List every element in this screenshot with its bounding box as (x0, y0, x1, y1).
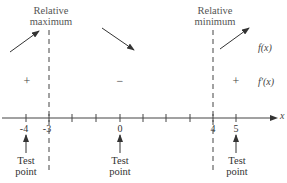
tick-label: 4 (211, 123, 216, 134)
relative-minimum-label: Relative minimum (190, 5, 240, 27)
tick-label: 0 (118, 123, 123, 134)
sign-interval-1: + (24, 74, 31, 89)
label-line: point (109, 166, 131, 177)
label-line: point (226, 166, 248, 177)
sign-interval-3: + (233, 74, 240, 89)
tick-label: -3 (43, 123, 51, 134)
label-line: Relative (26, 5, 76, 16)
test-point-label: Test point (109, 155, 131, 177)
relative-maximum-label: Relative maximum (26, 5, 76, 27)
test-point-label: Test point (226, 155, 248, 177)
axis-variable-label: x (280, 110, 284, 121)
sign-interval-2: − (117, 74, 124, 89)
increasing-arrow-icon (220, 28, 249, 49)
label-line: Test (226, 155, 248, 166)
label-line: Test (15, 155, 37, 166)
label-line: minimum (190, 16, 240, 27)
label-line: Relative (190, 5, 240, 16)
tick-label: 5 (234, 123, 239, 134)
test-point-label: Test point (15, 155, 37, 177)
number-line (2, 114, 278, 122)
axis-arrow-icon (270, 115, 278, 121)
tick-label: -4 (20, 123, 28, 134)
label-line: point (15, 166, 37, 177)
decreasing-arrow-icon (102, 28, 134, 50)
increasing-arrow-icon (10, 31, 39, 52)
function-row-label: f(x) (258, 42, 272, 53)
label-line: Test (109, 155, 131, 166)
derivative-row-label: f′(x) (258, 76, 274, 87)
label-line: maximum (26, 16, 76, 27)
